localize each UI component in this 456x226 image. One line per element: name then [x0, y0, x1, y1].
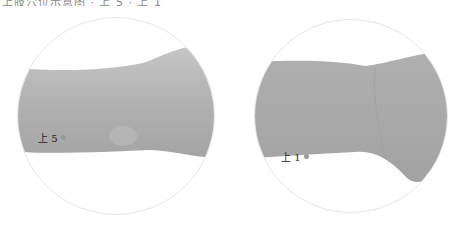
- wrist-illustration: [255, 20, 447, 212]
- wrist-photo-right: [254, 19, 448, 213]
- header-fragment: 上肢穴位示意图 · 上 5 · 上 1: [2, 0, 162, 6]
- forearm-illustration: [18, 18, 214, 214]
- point-label-text: 上 1: [281, 149, 301, 164]
- acupoint-marker-icon: [61, 135, 66, 140]
- acupoint-label-shang1: 上 1: [281, 149, 309, 164]
- forearm-photo-left: [17, 17, 215, 215]
- acupoint-label-shang5: 上 5: [38, 130, 66, 145]
- cut-off-header-text: 上肢穴位示意图 · 上 5 · 上 1: [0, 0, 300, 6]
- acupoint-marker-icon: [304, 154, 309, 159]
- point-label-text: 上 5: [38, 130, 58, 145]
